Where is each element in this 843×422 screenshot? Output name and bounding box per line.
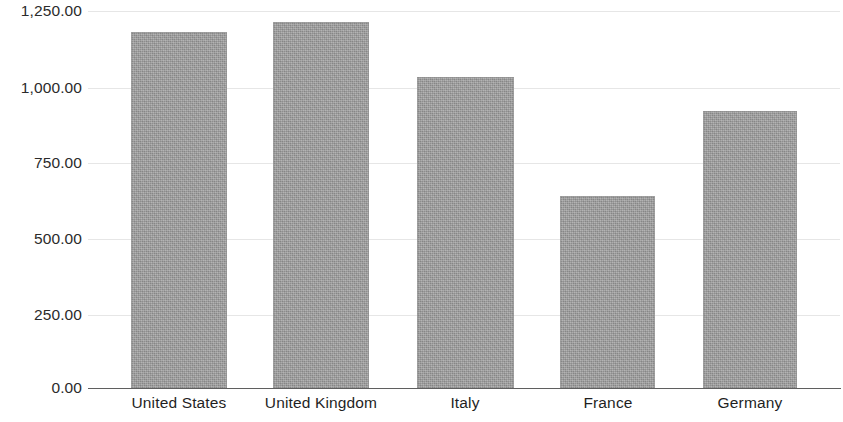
x-axis-line xyxy=(88,388,841,389)
y-tick-label-750: 750.00 xyxy=(0,154,82,172)
bar-germany[interactable] xyxy=(703,111,797,389)
bar-united-states[interactable] xyxy=(131,32,227,389)
x-tick-label-germany: Germany xyxy=(670,394,830,412)
x-tick-label-united-kingdom: United Kingdom xyxy=(241,394,401,412)
plot-area xyxy=(88,0,840,389)
y-tick-label-250: 250.00 xyxy=(0,306,82,324)
x-tick-label-italy: Italy xyxy=(385,394,545,412)
bar-chart: 1,250.00 1,000.00 750.00 500.00 250.00 0… xyxy=(0,0,843,422)
y-tick-label-1250: 1,250.00 xyxy=(0,2,82,20)
y-tick-label-0: 0.00 xyxy=(0,379,82,397)
bar-united-kingdom[interactable] xyxy=(273,22,369,389)
bar-france[interactable] xyxy=(560,196,655,389)
y-axis-ticks: 1,250.00 1,000.00 750.00 500.00 250.00 0… xyxy=(0,0,82,422)
x-tick-label-united-states: United States xyxy=(99,394,259,412)
x-tick-label-france: France xyxy=(528,394,688,412)
gridline-1250 xyxy=(88,11,840,12)
y-tick-label-500: 500.00 xyxy=(0,230,82,248)
y-tick-label-1000: 1,000.00 xyxy=(0,79,82,97)
bar-italy[interactable] xyxy=(417,77,514,389)
